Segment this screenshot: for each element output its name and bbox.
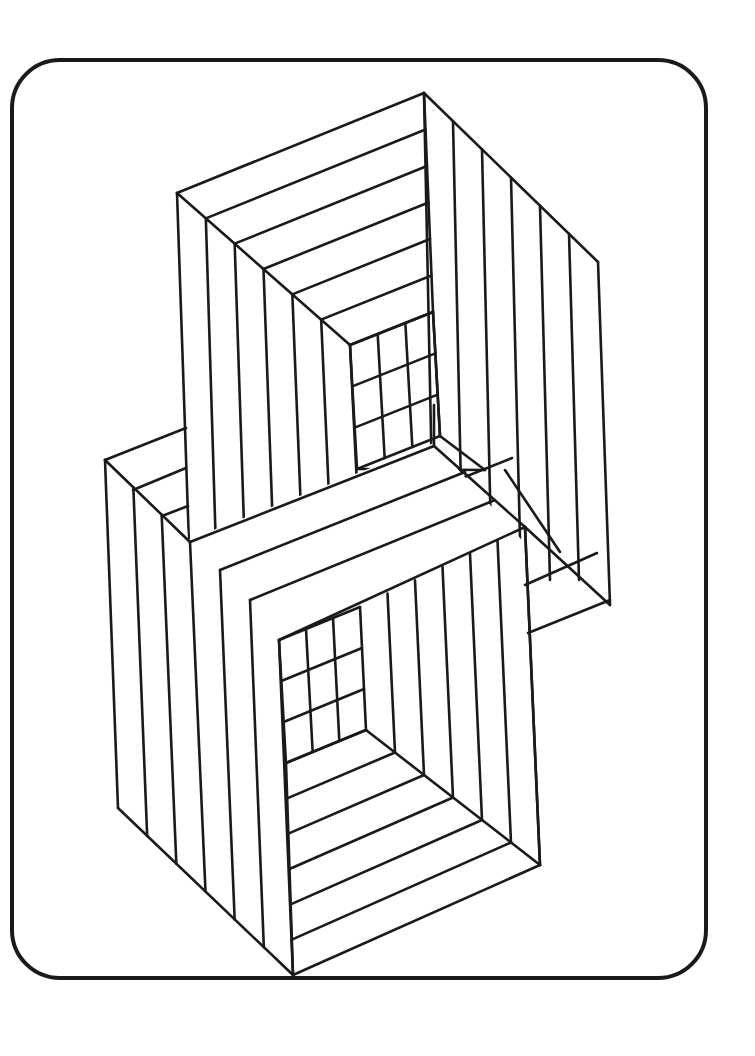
upper-grid-col — [350, 345, 357, 469]
impossible-boxes-illustration — [105, 93, 610, 975]
upper-top-face-line — [321, 276, 431, 320]
coloring-page-canvas — [0, 0, 755, 1056]
upper-side-return-line — [528, 600, 610, 633]
upper-grid-col — [378, 334, 385, 458]
upper-top-face-line — [177, 93, 424, 193]
upper-top-face-line — [264, 203, 429, 270]
upper-left-wall-line — [264, 269, 274, 545]
upper-side-wall-line — [598, 262, 610, 605]
upper-left-wall-line — [206, 218, 216, 545]
upper-top-face-line — [292, 239, 430, 294]
upper-grid-row — [352, 353, 435, 386]
upper-left-wall-line — [235, 244, 245, 545]
upper-grid-col — [405, 323, 412, 447]
upper-grid-row — [355, 395, 438, 428]
upper-top-face-line — [235, 166, 427, 244]
upper-grid-row — [350, 312, 433, 345]
upper-side-wall-line — [569, 234, 579, 580]
upper-top-face-line — [206, 130, 426, 219]
